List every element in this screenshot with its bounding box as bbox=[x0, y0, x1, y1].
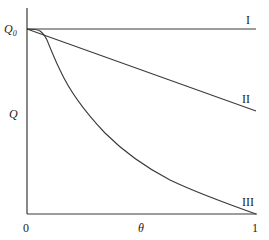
x-tick-1: 1 bbox=[252, 221, 258, 235]
curve-II bbox=[27, 29, 256, 111]
curve-III-label: III bbox=[242, 195, 254, 209]
curve-II-label: II bbox=[242, 92, 250, 106]
chart: Q0 Q 0 θ 1 I II III bbox=[0, 0, 269, 240]
curve-III bbox=[27, 29, 256, 214]
x-tick-0: 0 bbox=[23, 221, 29, 235]
y-axis-label: Q bbox=[9, 107, 18, 121]
x-axis-label: θ bbox=[138, 221, 144, 235]
q0-label: Q0 bbox=[4, 22, 17, 38]
curve-I-label: I bbox=[246, 13, 250, 27]
